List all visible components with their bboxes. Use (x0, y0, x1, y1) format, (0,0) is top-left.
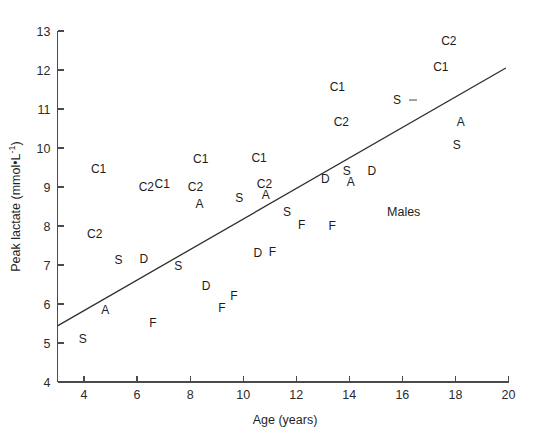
data-point-c2-19: C2 (257, 177, 273, 191)
data-point-f-15: F (230, 289, 237, 303)
data-point-c1-8: C1 (155, 177, 171, 191)
y-axis-title-superscript: -1 (7, 145, 17, 153)
males-group-label: Males (387, 205, 420, 219)
data-point-d-20: D (253, 246, 262, 260)
data-point-d-5: D (139, 252, 148, 266)
x-tick-label-8: 8 (187, 388, 194, 402)
x-tick-label-14: 14 (342, 388, 356, 402)
y-axis-title: Peak lactate (mmol•L-1) (7, 141, 23, 272)
data-point-c1-33: C1 (433, 60, 449, 74)
data-point-c2-32: C2 (441, 34, 457, 48)
y-axis-title-main: Peak lactate (mmol•L (9, 153, 23, 271)
data-point-s-16: S (235, 191, 243, 205)
y-tick-label-7: 7 (44, 259, 51, 273)
x-axis-title: Age (years) (253, 413, 318, 427)
y-tick-label-11: 11 (38, 103, 51, 117)
data-point-f-23: F (298, 218, 305, 232)
y-tick-label-8: 8 (44, 220, 51, 234)
data-point-a-1: A (101, 303, 109, 317)
data-point-d-24: D (321, 172, 330, 186)
data-point-c1-3: C1 (91, 162, 107, 176)
y-axis-title-tail: ) (9, 141, 23, 145)
data-point-c1-12: C1 (193, 152, 209, 166)
regression-line (58, 68, 506, 326)
x-tick-label-18: 18 (448, 388, 462, 402)
data-point-c2-11: C2 (188, 180, 204, 194)
data-point-s-22: S (283, 205, 291, 219)
x-tick-label-20: 20 (502, 388, 516, 402)
annotations-group: Males (387, 205, 420, 219)
y-tick-label-13: 13 (37, 25, 51, 39)
data-point-s-4: S (115, 253, 123, 267)
data-point-a-34: A (457, 115, 465, 129)
data-point-f-6: F (149, 316, 156, 330)
regression-line-group (58, 68, 506, 326)
data-point-s-35: S (453, 138, 461, 152)
x-tick-label-16: 16 (395, 388, 409, 402)
lactate-age-scatter-figure: 45678910111213468101214161820 SAC2C1SDFC… (0, 0, 536, 438)
x-tick-label-12: 12 (289, 388, 303, 402)
data-point-c1-26: C1 (330, 80, 346, 94)
data-point-c2-7: C2 (139, 180, 155, 194)
data-point-a-13: A (195, 197, 203, 211)
data-point-s-9: S (174, 259, 182, 273)
x-tick-label-6: 6 (134, 388, 141, 402)
data-point-c2-2: C2 (87, 227, 103, 241)
y-tick-label-4: 4 (44, 376, 51, 390)
axis-tick-labels: 45678910111213468101214161820 (37, 25, 516, 403)
data-point-d-30: D (368, 164, 377, 178)
plot-canvas: 45678910111213468101214161820 SAC2C1SDFC… (0, 0, 536, 438)
y-tick-label-10: 10 (37, 142, 51, 156)
y-tick-label-9: 9 (44, 181, 51, 195)
data-point-f-25: F (328, 219, 335, 233)
y-tick-label-6: 6 (44, 298, 51, 312)
data-point-f-21: F (269, 245, 276, 259)
data-point-f-14: F (218, 301, 225, 315)
data-point-s-31: S (393, 93, 401, 107)
x-tick-label-10: 10 (236, 388, 250, 402)
data-points-group: SAC2C1SDFC2C1SDC2C1AFFSC1AC2DFSFDFC1C2SA… (79, 34, 465, 346)
x-tick-label-4: 4 (81, 388, 88, 402)
y-tick-label-5: 5 (44, 337, 51, 351)
data-point-c2-27: C2 (334, 115, 350, 129)
y-tick-label-12: 12 (37, 64, 51, 78)
data-point-c1-17: C1 (251, 151, 267, 165)
data-point-a-29: A (347, 175, 355, 189)
data-point-s-0: S (79, 332, 87, 346)
data-point-d-10: D (202, 279, 211, 293)
